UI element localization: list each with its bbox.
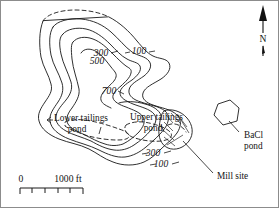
- contour-label-100-upper: 100: [132, 45, 147, 56]
- contour-label-700: 700: [102, 85, 117, 96]
- contour-labels: 300 100 500 700 300 100: [90, 45, 179, 169]
- contour-tick-700: [118, 91, 124, 94]
- lower-pond-stem: [99, 127, 101, 134]
- bacl-pond-leader: [229, 121, 239, 132]
- lower-tailings-pond-label-line1: Lower tailings: [54, 113, 108, 123]
- scale-bar-max-label: 1000 ft: [54, 173, 82, 184]
- contour-tick-300u: [111, 51, 118, 53]
- contour-tick-100u2: [149, 51, 155, 52]
- bacl-pond-label-line1: BaCl: [244, 130, 264, 140]
- contour-label-100-lower: 100: [154, 158, 169, 169]
- contour-label-500: 500: [90, 55, 105, 66]
- lower-tailings-pond-label-line2: pond: [68, 124, 87, 134]
- lower-pond-leader-tip1: [47, 117, 51, 120]
- scale-bar: 0 1000 ft: [19, 173, 83, 194]
- contour-tick-100l2: [172, 162, 179, 164]
- contour-label-300-lower: 300: [145, 147, 161, 158]
- map-canvas: 300 100 500 700 300 100 Lower tailings p…: [1, 1, 279, 208]
- scale-bar-zero-label: 0: [19, 173, 24, 184]
- north-arrow-label: N: [260, 33, 267, 44]
- upper-tailings-pond-label-line2: pond: [144, 123, 163, 133]
- mill-site-label: Mill site: [217, 171, 248, 181]
- contour-map-figure: 300 100 500 700 300 100 Lower tailings p…: [0, 0, 279, 208]
- mill-site-leader: [183, 141, 213, 173]
- upper-tailings-pond-label-line1: Upper tailings: [130, 112, 183, 122]
- bacl-pond-outline: [214, 100, 239, 125]
- north-arrow-head: [259, 5, 267, 21]
- north-arrow: N: [259, 5, 267, 56]
- contour-tick-100u: [125, 52, 130, 53]
- contour-tick-300l2: [164, 151, 171, 153]
- bacl-pond-label-line2: pond: [244, 141, 263, 151]
